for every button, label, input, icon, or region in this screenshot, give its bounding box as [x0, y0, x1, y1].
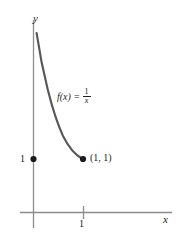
graph-figure: y x 1 1 (1, 1) f(x) = 1 x: [0, 0, 176, 237]
function-equation-label: f(x) = 1 x: [57, 88, 91, 106]
fraction-numerator: 1: [83, 88, 91, 96]
point-1-1-dot: [80, 156, 86, 162]
function-name: f(x): [57, 92, 71, 102]
x-axis-label: x: [163, 214, 168, 225]
fraction-denominator: x: [83, 97, 91, 105]
fraction-one-over-x: 1 x: [83, 88, 91, 106]
point-label-1-1: (1, 1): [90, 153, 112, 163]
x-tick-label-1: 1: [79, 219, 84, 229]
y-intercept-dot: [30, 156, 36, 162]
y-tick-label-1: 1: [20, 154, 25, 164]
y-axis-label: y: [33, 13, 38, 24]
equals-sign: =: [74, 92, 80, 102]
plot-canvas: [0, 0, 176, 237]
